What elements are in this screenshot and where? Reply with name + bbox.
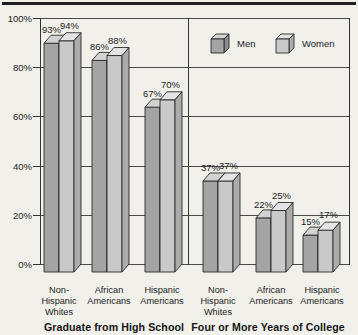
bar-women-non-hispanic-whites-3-front	[218, 181, 233, 272]
bar-women-non-hispanic-whites-3-side	[233, 173, 240, 272]
men-cube-icon	[210, 33, 231, 54]
category-label: HispanicAmericans	[300, 285, 344, 306]
bar-value-label: 94%	[60, 20, 80, 31]
y-axis-tick-label: 0%	[18, 259, 32, 270]
bar-value-label: 70%	[161, 79, 181, 90]
category-label: Non-HispanicWhites	[41, 285, 77, 317]
bar-women-african-americans-4-side	[286, 203, 293, 273]
bar-men-non-hispanic-whites-0-front	[44, 43, 59, 272]
y-axis-tick-label: 60%	[13, 111, 33, 122]
bar-women-non-hispanic-whites-0-side	[74, 33, 81, 272]
bar-value-label: 22%	[254, 199, 274, 210]
bar-men-hispanic-americans-2-front	[145, 107, 160, 272]
bar-value-label: 88%	[108, 35, 128, 46]
bar-women-african-americans-4-front	[271, 211, 286, 273]
group-label-college: Four or More Years of College	[191, 321, 344, 333]
bar-women-hispanic-americans-5-front	[318, 230, 333, 272]
bar-value-label: 15%	[301, 216, 321, 227]
category-label: Non-HispanicWhites	[200, 285, 236, 317]
group-label-high-school: Graduate from High School	[44, 321, 184, 333]
category-label: AfricanAmericans	[249, 285, 293, 306]
y-axis-tick-label: 20%	[13, 210, 33, 221]
bar-women-hispanic-americans-2-front	[160, 100, 175, 272]
bar-value-label: 86%	[90, 41, 110, 52]
bar-women-african-americans-1-front	[107, 56, 122, 272]
category-label: AfricanAmericans	[87, 285, 131, 306]
bar-value-label: 37%	[219, 160, 239, 171]
bar-men-hispanic-americans-5-front	[303, 235, 318, 272]
bar-value-label: 25%	[272, 190, 292, 201]
legend-label-men: Men	[237, 39, 255, 49]
bar-women-hispanic-americans-5-side	[333, 222, 340, 272]
bar-men-african-americans-4-front	[256, 218, 271, 272]
chart-figure: 0%20%40%60%80%100%93%94%Non-HispanicWhit…	[0, 0, 358, 335]
bar-women-non-hispanic-whites-0-front	[59, 41, 74, 272]
bar-value-label: 67%	[143, 88, 163, 99]
bar-women-african-americans-1-side	[122, 48, 129, 272]
category-label: HispanicAmericans	[140, 285, 184, 306]
bar-men-african-americans-1-front	[92, 60, 107, 272]
legend-item-women: Women	[275, 33, 335, 54]
women-cube-icon	[275, 33, 296, 54]
legend-item-men: Men	[210, 33, 255, 54]
y-axis-tick-label: 40%	[13, 161, 33, 172]
y-axis-tick-label: 100%	[8, 13, 33, 24]
legend-label-women: Women	[302, 39, 335, 49]
y-axis-tick-label: 80%	[13, 62, 33, 73]
bar-value-label: 17%	[319, 209, 339, 220]
bar-women-hispanic-americans-2-side	[175, 92, 182, 272]
bar-value-label: 93%	[42, 24, 62, 35]
bar-value-label: 37%	[201, 162, 221, 173]
bar-men-non-hispanic-whites-3-front	[203, 181, 218, 272]
